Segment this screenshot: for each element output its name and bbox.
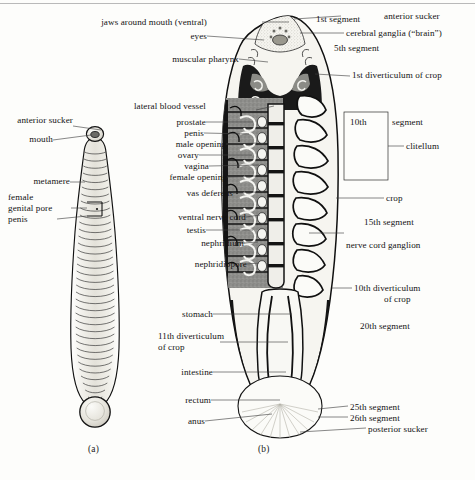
panel-a-external-leech: [53, 126, 119, 427]
label-cerebral-ganglia: cerebral ganglia (“brain”): [346, 28, 442, 38]
label-mouth-a: mouth: [5, 134, 53, 144]
label-tenth-segment-number: 10th: [350, 117, 367, 127]
label-clitellum: clitellum: [406, 141, 439, 151]
label-eleventh-diverticulum-line1: 11th diverticulum: [158, 331, 224, 341]
label-posterior-sucker-b: posterior sucker: [368, 424, 428, 434]
label-tenth-diverticulum-line2: of crop: [384, 294, 411, 304]
label-intestine: intestine: [140, 367, 213, 377]
label-first-diverticulum-of-crop: 1st diverticulum of crop: [352, 70, 442, 80]
label-twentieth-segment: 20th segment: [360, 321, 410, 331]
label-crop: crop: [386, 193, 403, 203]
label-nephridium: nephridium: [130, 238, 244, 248]
label-genital-pore-a: genital pore: [8, 203, 52, 213]
label-lateral-blood-vessel: lateral blood vessel: [100, 101, 206, 111]
label-male-opening: male opening: [130, 139, 226, 149]
label-stomach: stomach: [140, 309, 213, 319]
caption-panel-a: (a): [88, 444, 99, 454]
label-nerve-cord-ganglion: nerve cord ganglion: [346, 240, 420, 250]
label-first-segment: 1st segment: [316, 14, 360, 24]
label-vagina: vagina: [130, 161, 209, 171]
label-female-a: female: [8, 192, 33, 202]
leech-body-outline-a: [71, 138, 120, 408]
figure-page: anterior sucker mouth metamere female ge…: [0, 0, 475, 480]
label-anterior-sucker-b: anterior sucker: [384, 11, 440, 21]
label-eleventh-diverticulum-line2: of crop: [158, 342, 185, 352]
label-fifth-segment: 5th segment: [334, 43, 379, 53]
label-prostate: prostate: [130, 117, 206, 127]
label-nephridiopore: nephridiopore: [130, 259, 247, 269]
label-penis-b: penis: [130, 128, 204, 138]
caption-panel-b: (b): [258, 444, 270, 454]
mouth-a: [91, 132, 99, 138]
label-twentysixth-segment: 26th segment: [350, 413, 400, 423]
label-tenth-segment-word: segment: [392, 117, 423, 127]
label-ovary: ovary: [130, 150, 199, 160]
label-tenth-diverticulum-line1: 10th diverticulum: [354, 283, 420, 293]
label-penis-a: penis: [8, 214, 28, 224]
label-eyes: eyes: [140, 31, 207, 41]
label-testis: testis: [140, 225, 206, 235]
label-anterior-sucker-a: anterior sucker: [5, 115, 73, 125]
label-jaws-around-mouth: jaws around mouth (ventral): [80, 17, 207, 27]
label-fifteenth-segment: 15th segment: [364, 217, 414, 227]
label-muscular-pharynx: muscular pharynx: [120, 54, 239, 64]
label-anus: anus: [140, 416, 205, 426]
label-female-opening: female opening: [118, 172, 227, 182]
label-vas-deferens: vas deferens: [130, 188, 233, 198]
label-metamere-a: metamere: [5, 176, 70, 186]
label-twentyfifth-segment: 25th segment: [350, 402, 400, 412]
label-rectum: rectum: [140, 395, 211, 405]
cerebral-ganglia-b: [273, 35, 288, 45]
label-ventral-nerve-cord: ventral nerve cord: [118, 212, 246, 222]
